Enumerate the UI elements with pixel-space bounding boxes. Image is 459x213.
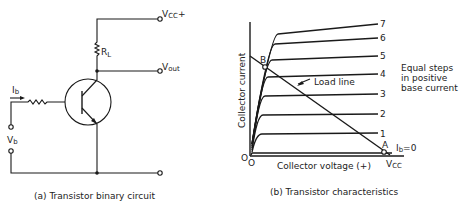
rl-label: RL [101,47,111,59]
load-line-label: Load line [314,77,355,87]
chart-caption: (b) Transistor characteristics [270,187,398,197]
point-b-marker [263,65,268,70]
transistor-icon [65,79,111,125]
vb-terminal-top [9,125,13,129]
ground-wire [11,153,158,173]
transistor-characteristics-chart: B A Load line 7 6 5 4 3 2 1 Ib=0 VCC O O… [237,19,458,197]
vout-label: Vout [162,62,180,73]
curve-2 [252,114,378,150]
vcc-label: VCC+ [162,9,186,20]
load-resistor-icon [95,37,99,71]
curve-label-6: 6 [380,33,386,43]
vb-label: Vb [7,135,18,146]
ground-terminal [158,171,162,175]
curve-label-3: 3 [380,89,386,99]
curve-1 [252,133,378,152]
y-axis-label: Collector current [237,52,247,128]
curve-ib0 [251,153,392,155]
transistor-circuit: VCC+ RL Vout Ib Vb (a) Transistor binary… [7,9,186,201]
input-resistor-icon [11,100,65,125]
point-b-label: B [260,55,266,65]
curve-label-2: 2 [380,109,386,119]
origin-label-2: O [248,158,255,168]
circuit-caption: (a) Transistor binary circuit [34,191,155,201]
x-axis-label: Collector voltage (+) [277,161,371,171]
ib-zero-label: Ib=0 [396,143,417,154]
collector-diagonal [82,80,97,96]
note-line-2: in positive [401,73,448,83]
curve-5 [252,56,378,144]
vcc-wire [97,19,158,37]
load-line [250,56,390,155]
note-line-1: Equal steps [401,63,453,73]
curve-label-4: 4 [380,69,386,79]
ib-label: Ib [12,85,20,96]
diagram-canvas: VCC+ RL Vout Ib Vb (a) Transistor binary… [0,0,459,213]
ib-arrow-icon [20,96,25,100]
curve-label-7: 7 [380,19,386,29]
curve-6 [252,38,378,144]
point-a-label: A [382,140,389,150]
point-a-marker [382,150,387,155]
vb-terminal-bottom [9,149,13,153]
curve-label-5: 5 [380,51,386,61]
vcc-axis-label: VCC [386,159,402,170]
curve-label-1: 1 [380,129,386,139]
note-line-3: base current [401,83,458,93]
